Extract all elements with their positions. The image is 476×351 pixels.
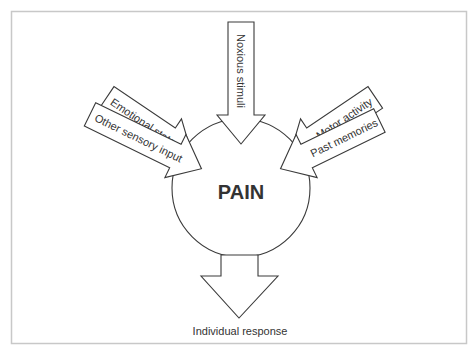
output-arrow-individual-response: Individual response <box>193 255 288 337</box>
label-noxious-stimuli: Noxious stimuli <box>235 34 247 108</box>
label-individual-response: Individual response <box>193 325 288 337</box>
center-label: PAIN <box>218 181 264 203</box>
pain-diagram: Noxious stimuli Emotional state Motor ac… <box>0 0 476 351</box>
